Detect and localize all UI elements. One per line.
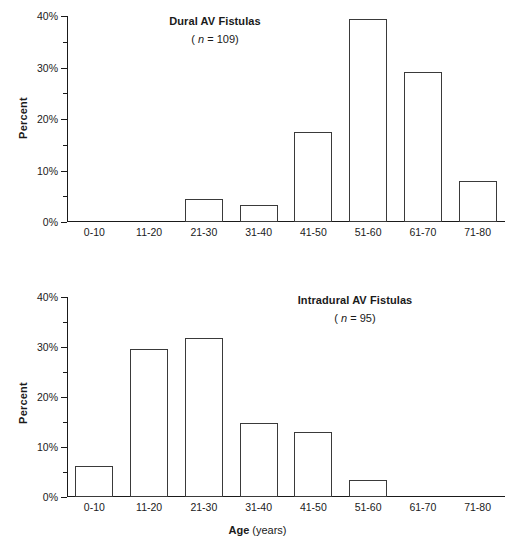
bar-slot: [177, 16, 232, 222]
x-axis-title-strong: Age: [228, 524, 249, 536]
bar-slot: [341, 297, 396, 497]
x-tick-label: 0-10: [67, 501, 122, 513]
y-tick-label: 40%: [37, 292, 58, 303]
panel-dural: Dural AV Fistulas ( n = 109) Percent 0%1…: [0, 0, 515, 278]
bar-slot: [341, 16, 396, 222]
bar: [349, 19, 387, 222]
y-tick-major: [61, 347, 67, 348]
y-axis-title: Percent: [17, 368, 29, 438]
bar-slot: [231, 16, 286, 222]
x-tick-label: 71-80: [450, 501, 505, 513]
bar-slot: [67, 297, 122, 497]
x-axis-title: Age (years): [0, 524, 515, 536]
x-tick-label: 31-40: [231, 226, 286, 238]
x-tick-label: 21-30: [177, 226, 232, 238]
y-tick-label: 0%: [43, 217, 58, 228]
bar: [130, 349, 168, 498]
y-tick-major: [61, 68, 67, 69]
x-tick-label: 41-50: [286, 226, 341, 238]
y-tick-label: 0%: [43, 492, 58, 503]
x-tick-label: 31-40: [231, 501, 286, 513]
bar-slot: [122, 297, 177, 497]
bar: [240, 423, 278, 498]
y-tick-major: [61, 397, 67, 398]
y-tick-minor: [63, 372, 67, 373]
y-tick-label: 10%: [37, 442, 58, 453]
x-tick-label: 0-10: [67, 226, 122, 238]
y-tick-label: 40%: [37, 11, 58, 22]
y-tick-minor: [63, 93, 67, 94]
x-tick-label: 71-80: [450, 226, 505, 238]
y-axis-title: Percent: [17, 83, 29, 153]
bar-group-dural: [67, 16, 505, 222]
bar-group-intradural: [67, 297, 505, 497]
y-tick-label: 20%: [37, 392, 58, 403]
bar-slot: [231, 297, 286, 497]
plot-area-intradural: Percent 0%10%20%30%40%: [67, 297, 505, 497]
x-tick-label: 11-20: [122, 226, 177, 238]
bar: [294, 132, 332, 222]
bar: [240, 205, 278, 223]
x-tick-label: 61-70: [396, 501, 451, 513]
x-tick-label: 41-50: [286, 501, 341, 513]
x-tick-label: 21-30: [177, 501, 232, 513]
bar: [185, 338, 223, 497]
bar-slot: [396, 16, 451, 222]
x-tick-label: 51-60: [341, 501, 396, 513]
bar: [294, 432, 332, 498]
y-tick-minor: [63, 472, 67, 473]
y-tick-label: 30%: [37, 342, 58, 353]
y-tick-label: 30%: [37, 62, 58, 73]
bar-slot: [122, 16, 177, 222]
y-tick-minor: [63, 422, 67, 423]
x-axis-title-rest: (years): [249, 524, 286, 536]
y-tick-major: [61, 119, 67, 120]
y-tick-major: [61, 297, 67, 298]
bar: [75, 466, 113, 498]
bar: [349, 480, 387, 497]
plot-area-dural: Percent 0%10%20%30%40%: [67, 16, 505, 222]
y-tick-major: [61, 171, 67, 172]
figure-histogram-pair: Dural AV Fistulas ( n = 109) Percent 0%1…: [0, 0, 515, 556]
y-tick-label: 20%: [37, 114, 58, 125]
x-tick-label: 11-20: [122, 501, 177, 513]
bar-slot: [286, 297, 341, 497]
bar-slot: [177, 297, 232, 497]
bar: [459, 181, 497, 222]
y-tick-major: [61, 16, 67, 17]
bar-slot: [450, 297, 505, 497]
x-tick-label: 51-60: [341, 226, 396, 238]
y-tick-label: 10%: [37, 165, 58, 176]
bar-slot: [67, 16, 122, 222]
bar: [404, 72, 442, 222]
bar: [185, 199, 223, 222]
y-tick-major: [61, 222, 67, 223]
y-tick-major: [61, 447, 67, 448]
y-tick-minor: [63, 145, 67, 146]
y-tick-minor: [63, 196, 67, 197]
y-tick-minor: [63, 42, 67, 43]
y-tick-major: [61, 497, 67, 498]
x-tick-label: 61-70: [396, 226, 451, 238]
y-tick-minor: [63, 322, 67, 323]
bar-slot: [396, 297, 451, 497]
bar-slot: [450, 16, 505, 222]
bar-slot: [286, 16, 341, 222]
